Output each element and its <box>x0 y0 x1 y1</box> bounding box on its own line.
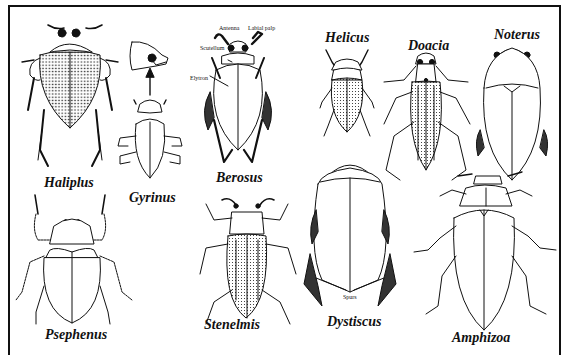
label-doacia: Doacia <box>408 38 449 54</box>
beetle-plate: Haliplus Gyrinus Berosus Helicus Doacia … <box>0 0 564 355</box>
label-amphizoa: Amphizoa <box>452 330 510 346</box>
haliplus-illustration <box>22 25 118 166</box>
label-helicus: Helicus <box>325 30 369 46</box>
annotation-spurs: Spurs <box>343 294 357 300</box>
label-gyrinus: Gyrinus <box>129 190 176 206</box>
label-haliplus: Haliplus <box>44 175 94 191</box>
helicus-illustration <box>320 50 374 136</box>
label-berosus: Berosus <box>216 170 263 186</box>
annotation-scutellum: Scutellum <box>200 45 224 51</box>
annotation-elytron: Elytron <box>190 75 208 81</box>
noterus-illustration <box>476 48 547 180</box>
annotation-labial-palp: Labial palp <box>248 25 275 31</box>
label-stenelmis: Stenelmis <box>204 317 260 333</box>
label-dystiscus: Dystiscus <box>327 314 381 330</box>
label-noterus: Noterus <box>494 27 540 43</box>
annotation-antenna: Antenna <box>219 25 239 31</box>
dystiscus-illustration <box>304 165 396 306</box>
berosus-illustration <box>204 32 271 162</box>
gyrinus-illustration <box>118 42 182 178</box>
amphizoa-illustration <box>414 172 556 330</box>
psephenus-illustration <box>16 195 132 324</box>
stenelmis-illustration <box>200 199 296 324</box>
label-psephenus: Psephenus <box>45 327 107 343</box>
doacia-illustration <box>384 53 470 180</box>
